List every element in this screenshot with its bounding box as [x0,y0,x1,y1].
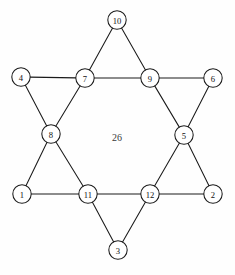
edge-8-11 [56,141,84,186]
node-circle-12[interactable] [141,185,159,203]
node-circle-2[interactable] [204,185,222,203]
graph-node-9[interactable]: 9 [141,69,159,87]
edge-8-1 [26,142,48,187]
node-circle-6[interactable] [204,69,222,87]
edge-7-8 [55,85,80,126]
edge-5-2 [188,143,209,187]
edge-10-9 [121,27,146,70]
edge-4-7 [30,77,77,78]
edge-6-5 [188,86,209,128]
node-circle-7[interactable] [76,69,94,87]
edge-11-3 [92,202,114,243]
edge-4-8 [25,85,47,127]
graph-node-7[interactable]: 7 [76,69,94,87]
graph-node-1[interactable]: 1 [13,185,31,203]
node-circle-1[interactable] [13,185,31,203]
edge-10-7 [89,28,113,71]
edge-5-12 [154,142,179,186]
node-circle-10[interactable] [108,11,126,29]
center-sum-label: 26 [112,132,122,143]
graph-node-2[interactable]: 2 [204,185,222,203]
node-circle-11[interactable] [79,185,97,203]
edge-9-5 [154,85,179,127]
star-graph-canvas: 104796851111223 26 [0,0,235,275]
hexagram-figure: 104796851111223 26 [0,0,235,275]
graph-node-12[interactable]: 12 [141,185,159,203]
graph-node-5[interactable]: 5 [175,126,193,144]
node-circle-3[interactable] [109,241,127,259]
node-circle-5[interactable] [175,126,193,144]
node-circle-9[interactable] [141,69,159,87]
graph-node-4[interactable]: 4 [12,68,30,86]
graph-node-11[interactable]: 11 [79,185,97,203]
graph-node-10[interactable]: 10 [108,11,126,29]
graph-node-8[interactable]: 8 [42,125,60,143]
node-circle-8[interactable] [42,125,60,143]
edge-12-3 [122,201,145,242]
node-circle-4[interactable] [12,68,30,86]
graph-node-6[interactable]: 6 [204,69,222,87]
graph-node-3[interactable]: 3 [109,241,127,259]
